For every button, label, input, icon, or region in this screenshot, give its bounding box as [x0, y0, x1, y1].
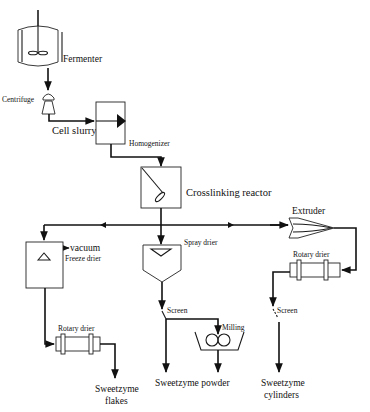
arrow-right-icon — [228, 222, 234, 228]
powder-label: Sweetzyme powder — [155, 378, 230, 388]
mill-roller-icon — [218, 334, 230, 346]
flow-cell-slurry — [49, 114, 94, 121]
centrifuge-bowl — [43, 94, 54, 100]
milling-hopper — [195, 332, 244, 350]
screen-middle-label: Screen — [167, 306, 188, 315]
milling-label: Milling — [222, 323, 245, 332]
process-flow-diagram: Fermenter Centrifuge Cell slurry Homogen… — [0, 0, 370, 412]
flow-rotary-to-screen — [273, 272, 290, 306]
rotary-drier-right-label: Rotary drier — [293, 250, 330, 259]
homogenizer-label: Homogenizer — [129, 139, 170, 148]
flow-freeze-to-rotary — [45, 288, 54, 344]
vacuum-label: vacuum — [70, 243, 101, 253]
freeze-drier-label: Freeze drier — [65, 254, 102, 263]
cylinders-label-line1: Sweetzyme — [261, 378, 305, 388]
centrifuge-label: Centrifuge — [2, 95, 35, 104]
flow-screen-to-milling — [166, 319, 218, 334]
arrow-left-icon — [100, 222, 106, 228]
crosslinking-reactor-label: Crosslinking reactor — [186, 187, 272, 198]
freeze-drier — [26, 242, 63, 288]
cylinders-label-line2: cylinders — [264, 390, 299, 400]
rotary-drier-tire — [324, 260, 328, 280]
rotary-drier-tire — [297, 260, 301, 280]
extruder — [289, 218, 334, 238]
centrifuge-body — [42, 101, 55, 114]
rotary-drier-left-label: Rotary drier — [58, 324, 95, 333]
screen-right-label: Screen — [277, 306, 298, 315]
mill-roller-icon — [206, 334, 218, 346]
flakes-label-line1: Sweetzyme — [95, 384, 139, 394]
fermenter-label: Fermenter — [63, 54, 103, 64]
centrifuge — [42, 94, 55, 114]
spray-drier-label: Spray drier — [184, 238, 218, 247]
screen-middle-icon — [162, 311, 166, 319]
spray-drier — [143, 245, 181, 282]
rotary-drier-tire — [89, 334, 93, 354]
rotary-drier-tire — [61, 334, 65, 354]
flow-to-flakes — [100, 344, 115, 378]
extruder-label: Extruder — [292, 206, 326, 216]
cell-slurry-label: Cell slurry — [52, 125, 97, 136]
flakes-label-line2: flakes — [105, 396, 128, 406]
fermenter — [18, 10, 62, 66]
